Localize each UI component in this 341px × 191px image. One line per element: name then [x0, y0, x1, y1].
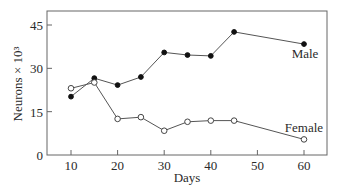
data-point-male — [208, 54, 213, 59]
x-tick-label: 20 — [111, 158, 124, 173]
series-label-female: Female — [285, 120, 323, 135]
data-point-female — [301, 137, 307, 143]
y-tick-label: 45 — [30, 18, 43, 33]
series-line-female — [71, 83, 304, 140]
data-point-male — [232, 30, 237, 35]
data-point-female — [115, 116, 121, 122]
data-point-male — [139, 75, 144, 80]
y-tick-label: 15 — [30, 105, 43, 120]
data-point-female — [92, 80, 98, 86]
line-chart: 0153045 102030405060 Days Neurons × 10³ … — [0, 0, 341, 191]
series-male — [69, 30, 307, 100]
data-point-female — [68, 85, 74, 91]
series-line-male — [71, 32, 304, 97]
data-point-female — [185, 119, 191, 125]
x-tick-label: 40 — [204, 158, 217, 173]
data-point-female — [138, 114, 144, 120]
data-point-male — [185, 53, 190, 58]
x-tick-label: 60 — [298, 158, 311, 173]
x-tick-label: 10 — [65, 158, 78, 173]
series-label-male: Male — [292, 46, 319, 61]
data-point-female — [208, 118, 214, 124]
y-tick-label: 30 — [30, 61, 43, 76]
x-tick-label: 30 — [158, 158, 171, 173]
y-axis-label: Neurons × 10³ — [10, 47, 25, 122]
data-point-male — [115, 83, 120, 88]
series-group — [68, 30, 307, 143]
data-point-male — [162, 50, 167, 55]
x-tick-label: 50 — [251, 158, 264, 173]
data-point-male — [69, 94, 74, 99]
x-axis-label: Days — [174, 170, 201, 185]
y-tick-label: 0 — [37, 148, 44, 163]
data-point-female — [231, 118, 237, 124]
y-axis-ticks: 0153045 — [30, 18, 52, 163]
series-female — [68, 80, 307, 143]
data-point-female — [161, 128, 167, 134]
